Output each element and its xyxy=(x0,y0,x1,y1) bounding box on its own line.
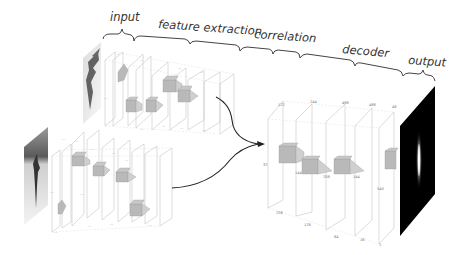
svg-text:···: ··· xyxy=(202,129,205,133)
svg-text:···: ··· xyxy=(112,152,115,156)
decoder-top-label-4: 488 xyxy=(369,103,377,107)
network-architecture-diagram: input feature extraction correlation dec… xyxy=(0,0,461,255)
decoder-layers: 122 244 488 488 48 32 256 128 64 16 1 14… xyxy=(263,100,398,247)
svg-text:···: ··· xyxy=(178,67,181,71)
output-response-map xyxy=(400,86,435,236)
brace-feature-extraction xyxy=(134,36,240,51)
decoder-kernel-2 xyxy=(302,156,332,174)
search-feature-layers: ··· ··· ··· ··· ··· ··· ··· ··· ··· ··· … xyxy=(50,130,172,235)
decoder-bottom-label-2: 128 xyxy=(304,223,312,227)
decoder-bottom-label-1: 256 xyxy=(276,211,284,215)
brace-correlation xyxy=(240,47,300,58)
stage-label-decoder: decoder xyxy=(342,42,391,60)
svg-text:···: ··· xyxy=(62,138,65,142)
decoder-kernel-label-2: 208 xyxy=(323,175,331,179)
decoder-kernel-label-1: 144 xyxy=(295,171,303,175)
template-input-image xyxy=(83,42,101,124)
brace-output xyxy=(403,70,435,81)
template-feature-layers: ··· ··· ··· ··· ··· ··· ··· ··· ··· xyxy=(104,52,234,134)
svg-text:···: ··· xyxy=(104,97,107,101)
decoder-bottom-label-4: 16 xyxy=(360,238,365,242)
brace-input xyxy=(103,29,134,41)
decoder-kernel-3 xyxy=(334,156,364,174)
svg-text:···: ··· xyxy=(140,128,143,132)
svg-text:···: ··· xyxy=(54,231,57,235)
decoder-kernel-label-4: 540 xyxy=(377,187,385,191)
svg-text:···: ··· xyxy=(50,191,53,195)
svg-text:···: ··· xyxy=(140,59,143,63)
decoder-bottom-label-3: 64 xyxy=(334,235,339,239)
svg-text:···: ··· xyxy=(110,223,113,227)
decoder-top-label-5: 48 xyxy=(392,105,397,109)
svg-text:···: ··· xyxy=(75,140,78,144)
decoder-top-label-1: 122 xyxy=(278,103,285,107)
svg-text:···: ··· xyxy=(180,127,183,131)
stage-label-output: output xyxy=(408,53,447,70)
svg-text:···: ··· xyxy=(116,53,119,57)
stage-label-feature-extraction: feature extraction xyxy=(158,17,263,38)
svg-text:···: ··· xyxy=(125,159,128,163)
decoder-kernel-label-3: 144 xyxy=(353,175,361,179)
decoder-top-label-3: 488 xyxy=(342,101,350,105)
stage-label-input: input xyxy=(110,10,140,24)
svg-text:···: ··· xyxy=(162,125,165,129)
search-input-image xyxy=(24,127,48,225)
svg-text:···: ··· xyxy=(148,224,151,228)
stage-label-correlation: correlation xyxy=(254,27,317,45)
svg-text:···: ··· xyxy=(80,193,83,197)
decoder-side-label: 32 xyxy=(263,163,268,167)
decoder-top-label-2: 244 xyxy=(310,100,318,104)
svg-text:···: ··· xyxy=(90,148,93,152)
decoder-kernel-4 xyxy=(385,148,398,169)
svg-text:···: ··· xyxy=(200,71,203,75)
svg-text:···: ··· xyxy=(88,225,91,229)
decoder-bottom-label-5: 1 xyxy=(379,243,381,247)
decoder-kernel-1 xyxy=(279,143,304,163)
